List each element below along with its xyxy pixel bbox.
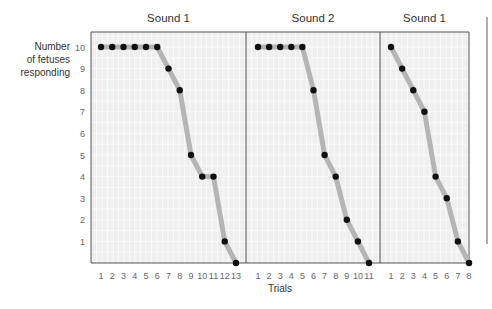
data-point [154,44,160,50]
data-point [444,195,450,201]
x-tick-label: 10 [197,271,207,281]
data-point [355,238,361,244]
data-point [266,44,272,50]
panel-2: Sound 21234567891011 [246,12,380,281]
x-tick-label: 4 [132,271,137,281]
x-tick-label: 8 [177,271,182,281]
data-point [333,173,339,179]
x-tick-label: 12 [220,271,230,281]
y-tick-label: 8 [80,86,85,96]
data-point [288,44,294,50]
x-tick-label: 11 [209,271,218,281]
y-tick-label: 7 [80,107,85,117]
data-point [399,65,405,71]
panel-title: Sound 1 [403,12,446,24]
x-tick-label: 3 [278,271,283,281]
data-point [177,87,183,93]
data-point [222,238,228,244]
x-tick-label: 7 [166,271,171,281]
y-tick-label: 9 [80,64,85,74]
data-point [310,87,316,93]
panel-3: Sound 112345678 [380,12,472,281]
x-tick-label: 7 [455,271,460,281]
y-axis-label-line1: Number [34,41,70,52]
x-tick-label: 2 [267,271,272,281]
data-point [466,260,472,266]
data-point [432,173,438,179]
x-tick-label: 5 [433,271,438,281]
data-point [233,260,239,266]
data-point [421,109,427,115]
habituation-chart: Sound 112345678910111213Sound 2123456789… [0,0,492,309]
data-point [165,65,171,71]
data-point [255,44,261,50]
x-tick-label: 9 [188,271,193,281]
data-point [143,44,149,50]
data-point [321,152,327,158]
y-tick-label: 3 [80,194,85,204]
data-point [188,152,194,158]
x-tick-label: 8 [467,271,472,281]
y-axis-label-line3: responding [21,67,70,78]
data-point [277,44,283,50]
x-tick-label: 9 [344,271,349,281]
data-point [455,238,461,244]
data-point [410,87,416,93]
x-tick-label: 1 [255,271,260,281]
panel-1: Sound 112345678910111213 [91,12,246,281]
data-point [132,44,138,50]
panel-background [246,32,380,263]
x-tick-label: 11 [364,271,373,281]
x-tick-label: 2 [400,271,405,281]
x-tick-label: 10 [353,271,363,281]
y-tick-label: 2 [80,215,85,225]
x-tick-label: 4 [422,271,427,281]
y-tick-label: 10 [75,43,85,53]
data-point [120,44,126,50]
x-axis-label: Trials [268,283,292,294]
x-tick-label: 3 [121,271,126,281]
data-point [199,173,205,179]
x-tick-label: 7 [322,271,327,281]
panel-title: Sound 2 [292,12,335,24]
x-tick-label: 8 [333,271,338,281]
y-tick-label: 4 [80,172,85,182]
panels: Sound 112345678910111213Sound 2123456789… [91,12,472,281]
x-tick-label: 2 [110,271,115,281]
y-axis-label-line2: of fetuses [27,54,70,65]
x-tick-label: 1 [98,271,103,281]
data-point [210,173,216,179]
data-point [388,44,394,50]
y-tick-label: 6 [80,129,85,139]
y-axis: 12345678910 [75,43,85,247]
x-tick-label: 1 [388,271,393,281]
y-tick-label: 1 [80,237,85,247]
x-tick-label: 13 [231,271,241,281]
x-tick-label: 4 [289,271,294,281]
panel-title: Sound 1 [147,12,190,24]
x-tick-label: 5 [300,271,305,281]
x-tick-label: 6 [155,271,160,281]
x-tick-label: 3 [411,271,416,281]
x-tick-label: 5 [143,271,148,281]
x-tick-label: 6 [444,271,449,281]
data-point [366,260,372,266]
data-point [344,217,350,223]
data-point [109,44,115,50]
x-tick-label: 6 [311,271,316,281]
y-tick-label: 5 [80,151,85,161]
data-point [299,44,305,50]
data-point [98,44,104,50]
